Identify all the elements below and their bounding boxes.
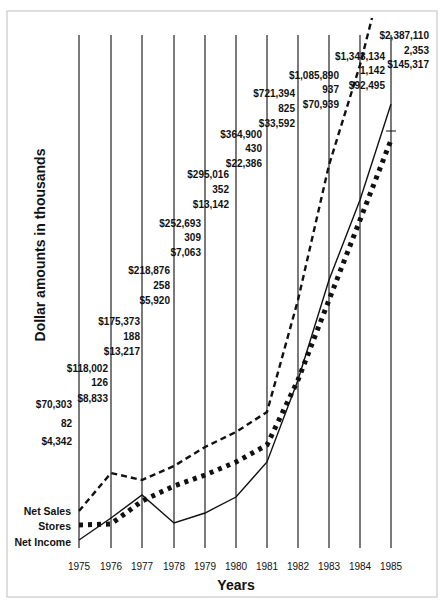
data-labels: $70,303 82 $4,342 $118,002 126 $8,833 $1… <box>36 30 430 447</box>
label-sales-1977: $175,373 <box>98 316 140 327</box>
label-income-1982: $33,592 <box>259 118 296 129</box>
label-income-1976: $8,833 <box>77 393 108 404</box>
x-axis-title: Years <box>217 577 255 593</box>
tick-1984: 1984 <box>349 561 372 572</box>
label-stores-1977: 188 <box>123 331 140 342</box>
label-stores-1981: 430 <box>245 143 262 154</box>
label-income-1983: $70,939 <box>303 99 340 110</box>
label-stores-1983: 937 <box>322 84 339 95</box>
label-income-1985: $145,317 <box>387 59 429 70</box>
label-income-1980: $13,142 <box>193 199 230 210</box>
legend-net-income: Net Income <box>14 536 71 548</box>
x-axis-ticks: 1975 1976 1977 1978 1979 1980 1981 1982 … <box>68 561 403 572</box>
tick-1977: 1977 <box>131 561 154 572</box>
label-stores-1979: 309 <box>184 232 201 243</box>
label-stores-1984: 1,142 <box>360 65 385 76</box>
label-sales-1983: $1,085,890 <box>289 70 339 81</box>
label-sales-1978: $218,876 <box>128 265 170 276</box>
chart-frame <box>7 11 437 597</box>
label-sales-1985: $2,387,110 <box>380 30 430 41</box>
label-stores-1978: 258 <box>153 280 170 291</box>
legend-net-sales: Net Sales <box>24 505 71 517</box>
tick-1980: 1980 <box>225 561 248 572</box>
y-axis-title: Dollar amounts in thousands <box>32 148 48 341</box>
label-sales-1979: $252,693 <box>159 218 201 229</box>
label-sales-1982: $721,394 <box>253 88 295 99</box>
label-stores-1975: 82 <box>61 418 73 429</box>
label-stores-1980: 352 <box>212 184 229 195</box>
label-income-1977: $13,217 <box>104 346 141 357</box>
label-income-1979: $7,063 <box>170 247 201 258</box>
label-sales-1980: $295,016 <box>187 169 229 180</box>
line-chart: Dollar amounts in thousands $70,303 82 $… <box>0 0 446 606</box>
tick-1976: 1976 <box>100 561 123 572</box>
label-stores-1976: 126 <box>91 377 108 388</box>
label-income-1975: $4,342 <box>41 436 72 447</box>
tick-1985: 1985 <box>380 561 403 572</box>
label-sales-1984: $1,343,134 <box>335 51 385 62</box>
label-stores-1985: 2,353 <box>404 45 429 56</box>
label-income-1981: $22,386 <box>226 158 263 169</box>
tick-1982: 1982 <box>287 561 310 572</box>
label-sales-1975: $70,303 <box>36 399 73 410</box>
tick-1978: 1978 <box>163 561 186 572</box>
tick-1975: 1975 <box>68 561 91 572</box>
label-sales-1976: $118,002 <box>67 363 109 374</box>
legend-stores: Stores <box>38 520 71 532</box>
tick-1981: 1981 <box>256 561 279 572</box>
label-stores-1982: 825 <box>278 103 295 114</box>
label-sales-1981: $364,900 <box>220 129 262 140</box>
tick-1979: 1979 <box>194 561 217 572</box>
label-income-1978: $5,920 <box>139 295 170 306</box>
tick-1983: 1983 <box>318 561 341 572</box>
